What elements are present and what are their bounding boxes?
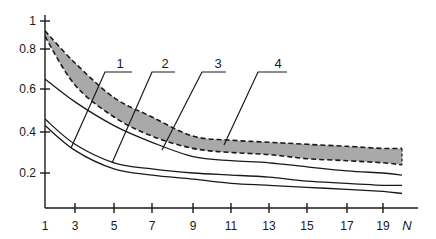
x-tick-label: 17 <box>340 219 354 233</box>
y-tick-label: 0.8 <box>19 42 36 56</box>
chart: 1 0.8 0.6 0.4 0.2 1 3 5 7 9 11 13 15 17 … <box>0 0 436 239</box>
x-axis-title: N <box>402 218 412 233</box>
y-tick-label: 0.4 <box>19 125 36 139</box>
x-tick-label: 3 <box>72 219 79 233</box>
callout-label-4: 4 <box>274 56 281 71</box>
y-tick-label: 0.2 <box>19 166 36 180</box>
callout-4: 4 <box>224 56 287 145</box>
y-tick-label: 0.6 <box>19 82 36 96</box>
x-tick-label: 1 <box>42 219 49 233</box>
y-tick-label: 1 <box>29 14 36 28</box>
callout-label-3: 3 <box>214 56 221 71</box>
x-tick-label: 19 <box>376 219 390 233</box>
callout-label-1: 1 <box>116 56 123 71</box>
x-tick-label: 13 <box>262 219 276 233</box>
x-tick-label: 15 <box>300 219 314 233</box>
x-tick-labels: 1 3 5 7 9 11 13 15 17 19 N <box>42 218 413 233</box>
x-tick-label: 11 <box>225 219 238 233</box>
y-tick-labels: 1 0.8 0.6 0.4 0.2 <box>19 14 36 180</box>
x-tick-label: 9 <box>190 219 197 233</box>
callout-label-2: 2 <box>161 56 168 71</box>
x-tick-label: 5 <box>111 219 118 233</box>
x-tick-label: 7 <box>149 219 156 233</box>
